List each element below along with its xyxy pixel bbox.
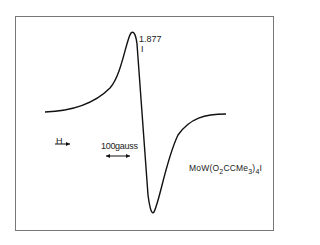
g-value-tick: I <box>141 44 144 54</box>
compound-label: MoW(O2CCMe3)4I <box>189 163 262 175</box>
scale-bar-label: 100gauss <box>101 141 138 151</box>
scale-bar-arrow-icon <box>106 154 130 158</box>
field-label: H <box>56 136 63 146</box>
spectrum-curve <box>45 32 226 213</box>
g-value-label: 1.877 <box>139 34 162 44</box>
